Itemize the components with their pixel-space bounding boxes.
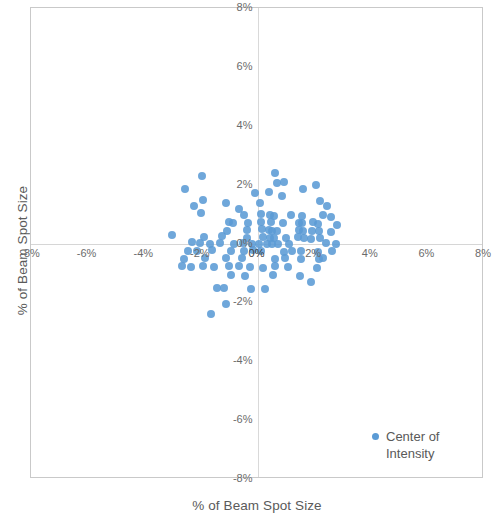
y-tick-label: -4% — [233, 354, 253, 366]
scatter-point — [227, 247, 235, 255]
scatter-point — [319, 211, 327, 219]
scatter-point — [210, 263, 218, 271]
scatter-point — [281, 254, 289, 262]
scatter-point — [313, 264, 321, 272]
scatter-point — [199, 262, 207, 270]
scatter-point — [247, 285, 255, 293]
legend-entry-label: Center of Intensity — [386, 428, 439, 462]
scatter-point — [198, 172, 206, 180]
scatter-point — [227, 271, 235, 279]
scatter-point — [307, 235, 315, 243]
scatter-point — [307, 278, 315, 286]
scatter-point — [222, 254, 230, 262]
plot-area — [31, 8, 482, 477]
chart-legend: Center of Intensity — [372, 428, 476, 462]
scatter-point — [225, 262, 233, 270]
scatter-point — [168, 231, 176, 239]
scatter-point — [267, 218, 275, 226]
scatter-point — [269, 271, 277, 279]
legend-marker-icon — [372, 433, 379, 440]
scatter-point — [288, 247, 296, 255]
scatter-point — [327, 228, 335, 236]
x-tick-label: -8% — [20, 247, 40, 259]
scatter-point — [222, 199, 230, 207]
scatter-point — [178, 262, 186, 270]
x-tick-label: -6% — [77, 247, 97, 259]
scatter-point — [278, 192, 286, 200]
x-tick-label: 8% — [475, 247, 491, 259]
scatter-point — [259, 264, 267, 272]
y-tick-label: 6% — [237, 60, 253, 72]
scatter-point — [240, 211, 248, 219]
scatter-point — [271, 262, 279, 270]
scatter-point — [322, 239, 330, 247]
scatter-point — [280, 178, 288, 186]
scatter-point — [187, 263, 195, 271]
scatter-point — [229, 219, 237, 227]
scatter-chart: % of Beam Spot Size -8%-6%-4%-2%0%2%4%6%… — [0, 0, 493, 523]
scatter-point — [296, 272, 304, 280]
scatter-point — [285, 240, 293, 248]
x-tick-label: -2% — [190, 247, 210, 259]
x-tick-label: 4% — [362, 247, 378, 259]
scatter-point — [241, 272, 249, 280]
y-tick-label: 4% — [237, 119, 253, 131]
scatter-point — [238, 254, 246, 262]
x-tick-label: -4% — [133, 247, 153, 259]
scatter-point — [297, 247, 305, 255]
legend-entry[interactable]: Center of Intensity — [372, 428, 476, 462]
scatter-point — [181, 185, 189, 193]
scatter-point — [265, 188, 273, 196]
scatter-point — [323, 202, 331, 210]
scatter-point — [251, 189, 259, 197]
y-tick-label: 8% — [237, 1, 253, 13]
x-tick-label: 6% — [418, 247, 434, 259]
y-tick-label: 0% — [237, 237, 253, 249]
scatter-point — [299, 185, 307, 193]
scatter-point — [271, 169, 279, 177]
scatter-point — [197, 209, 205, 217]
legend-label-line2: Intensity — [386, 446, 434, 461]
scatter-point — [190, 202, 198, 210]
scatter-point — [216, 239, 224, 247]
scatter-point — [220, 284, 228, 292]
scatter-point — [279, 219, 287, 227]
plot-frame — [30, 7, 483, 478]
scatter-point — [243, 226, 251, 234]
legend-label-line1: Center of — [386, 429, 439, 444]
scatter-point — [256, 199, 264, 207]
scatter-point — [297, 255, 305, 263]
x-axis-title: % of Beam Spot Size — [30, 498, 484, 513]
scatter-point — [199, 196, 207, 204]
y-tick-label: -2% — [233, 295, 253, 307]
x-tick-label: 2% — [305, 247, 321, 259]
scatter-point — [333, 221, 341, 229]
y-tick-label: 2% — [237, 178, 253, 190]
scatter-point — [257, 210, 265, 218]
scatter-point — [284, 263, 292, 271]
scatter-point — [312, 181, 320, 189]
scatter-point — [274, 240, 282, 248]
scatter-point — [287, 211, 295, 219]
y-tick-label: -8% — [233, 472, 253, 484]
scatter-point — [222, 300, 230, 308]
scatter-point — [207, 310, 215, 318]
scatter-point — [261, 285, 269, 293]
scatter-point — [246, 263, 254, 271]
scatter-point — [328, 247, 336, 255]
y-tick-label: -6% — [233, 413, 253, 425]
scatter-point — [327, 213, 335, 221]
scatter-point — [235, 262, 243, 270]
